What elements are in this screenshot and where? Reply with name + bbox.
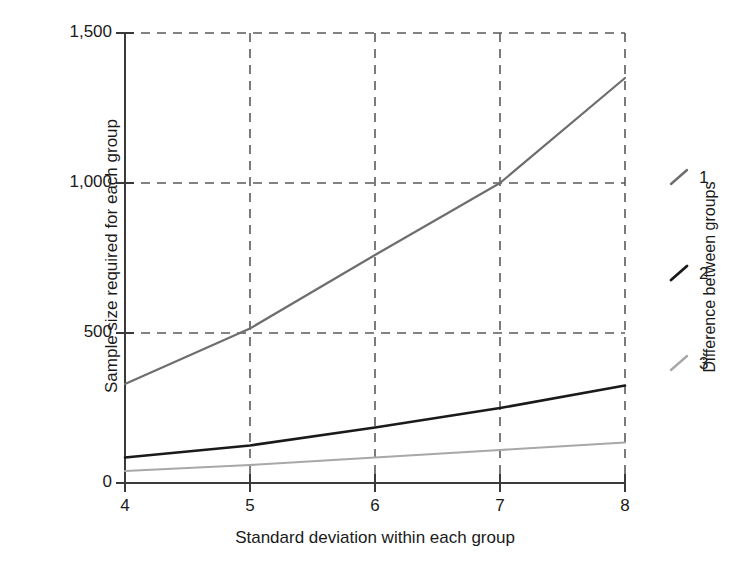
- x-tick-label: 5: [230, 496, 270, 516]
- chart-container: Sample size required for each group Stan…: [0, 0, 748, 569]
- y-tick-label: 0: [26, 472, 112, 492]
- x-tick-label: 8: [605, 496, 645, 516]
- x-axis-title: Standard deviation within each group: [125, 528, 625, 548]
- legend-label: 2: [699, 265, 708, 282]
- x-tick-label: 6: [355, 496, 395, 516]
- y-tick-label: 500: [26, 322, 112, 342]
- legend-label: 3: [699, 355, 708, 372]
- y-tick-label: 1,500: [26, 22, 112, 42]
- legend-item-3[interactable]: 3: [668, 352, 708, 374]
- legend-item-1[interactable]: 1: [668, 166, 708, 188]
- gridlines: [125, 33, 625, 483]
- legend-item-2[interactable]: 2: [668, 262, 708, 284]
- y-axis-title: Sample size required for each group: [102, 26, 122, 486]
- x-tick-label: 4: [105, 496, 145, 516]
- legend-swatch-icon: [668, 352, 690, 374]
- y-tick-label: 1,000: [26, 172, 112, 192]
- legend-label: 1: [699, 169, 708, 186]
- axis-ticks: [116, 33, 625, 492]
- x-tick-label: 7: [480, 496, 520, 516]
- legend-swatch-icon: [668, 166, 690, 188]
- legend-swatch-icon: [668, 262, 690, 284]
